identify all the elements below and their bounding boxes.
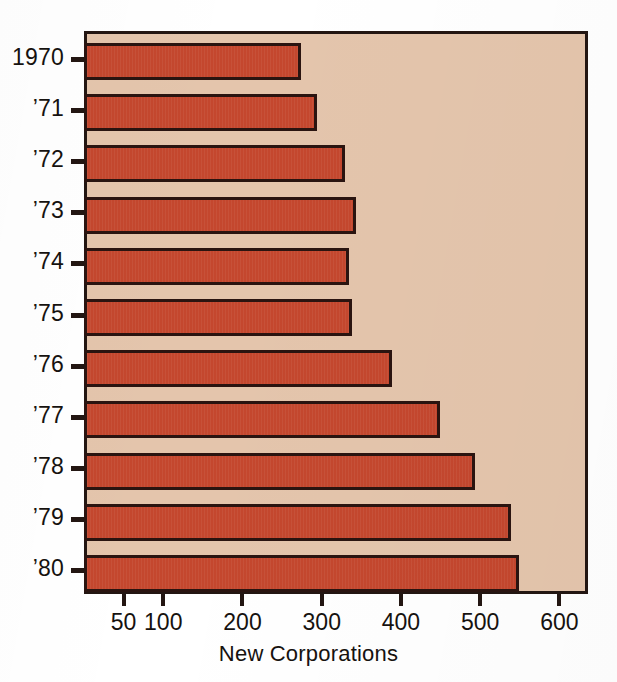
x-tick-mark	[320, 593, 324, 606]
bar-79	[84, 504, 511, 541]
x-tick-mark	[122, 593, 126, 606]
y-tick-mark	[71, 108, 85, 113]
y-tick-label: ’71	[0, 95, 64, 122]
y-tick-label: ’78	[0, 453, 64, 480]
bar-74	[84, 248, 349, 285]
x-tick-label: 600	[519, 609, 599, 636]
y-tick-mark	[71, 568, 85, 573]
bar-78	[84, 453, 475, 490]
x-tick-label: 400	[361, 609, 441, 636]
bar-chart-figure: 1970’71’72’73’74’75’76’77’78’79’80 50100…	[0, 0, 617, 682]
y-tick-mark	[71, 313, 85, 318]
y-tick-mark	[71, 210, 85, 215]
y-tick-label: ’73	[0, 197, 64, 224]
bar-1970	[84, 43, 301, 80]
x-tick-mark	[478, 593, 482, 606]
y-tick-mark	[71, 517, 85, 522]
clipped-header-text	[40, 0, 580, 7]
bar-77	[84, 401, 440, 438]
bar-76	[84, 350, 392, 387]
y-tick-mark	[71, 57, 85, 62]
y-tick-label: ’72	[0, 146, 64, 173]
bar-71	[84, 94, 317, 131]
plot-area	[84, 31, 588, 594]
y-tick-label: ’77	[0, 402, 64, 429]
y-tick-mark	[71, 159, 85, 164]
bar-72	[84, 145, 345, 182]
x-tick-label: 100	[123, 609, 203, 636]
x-tick-mark	[161, 593, 165, 606]
y-tick-label: ’76	[0, 351, 64, 378]
y-tick-mark	[71, 466, 85, 471]
x-tick-label: 200	[202, 609, 282, 636]
bar-80	[84, 555, 519, 592]
x-tick-mark	[399, 593, 403, 606]
bars-container	[87, 34, 585, 591]
y-tick-label: ’75	[0, 300, 64, 327]
bar-73	[84, 197, 356, 234]
y-tick-mark	[71, 364, 85, 369]
x-tick-mark	[240, 593, 244, 606]
x-tick-label: 500	[440, 609, 520, 636]
x-tick-label: 300	[282, 609, 362, 636]
y-tick-mark	[71, 415, 85, 420]
x-axis-title: New Corporations	[0, 641, 617, 667]
x-tick-mark	[557, 593, 561, 606]
y-tick-mark	[71, 261, 85, 266]
y-tick-label: 1970	[0, 44, 64, 71]
bar-75	[84, 299, 352, 336]
y-tick-label: ’74	[0, 248, 64, 275]
y-tick-label: ’80	[0, 555, 64, 582]
y-tick-label: ’79	[0, 504, 64, 531]
